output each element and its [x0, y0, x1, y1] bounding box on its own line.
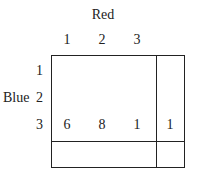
row-variable-label: Blue — [3, 91, 29, 105]
column-label-1: 1 — [64, 33, 71, 47]
box-top-border — [51, 55, 185, 56]
column-variable-label: Red — [92, 8, 115, 22]
column-label-2: 2 — [99, 33, 106, 47]
row-label-1: 1 — [36, 64, 43, 78]
box-left-border — [51, 55, 52, 168]
box-bottom-border — [51, 167, 185, 168]
cell-r3-c2: 8 — [99, 118, 106, 132]
cell-r3-c3: 1 — [134, 118, 141, 132]
cell-r3-c1: 6 — [64, 118, 71, 132]
total-column-divider — [156, 55, 157, 168]
column-label-3: 3 — [134, 33, 141, 47]
total-row-divider — [51, 141, 185, 142]
box-right-border — [184, 55, 185, 168]
row-label-3: 3 — [36, 118, 43, 132]
cell-r3-total: 1 — [167, 118, 174, 132]
row-label-2: 2 — [36, 91, 43, 105]
